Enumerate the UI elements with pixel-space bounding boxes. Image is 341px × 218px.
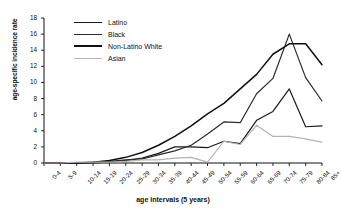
legend-label: Asian — [108, 55, 126, 62]
legend-item-asian: Asian — [74, 52, 162, 64]
legend-label: Black — [108, 31, 125, 38]
legend-label: Latino — [108, 19, 127, 26]
legend-swatch-icon — [74, 45, 102, 47]
legend-item-non-latino-white: Non-Latino White — [74, 40, 162, 52]
legend-item-black: Black — [74, 28, 162, 40]
series-line-latino — [44, 89, 322, 163]
chart-legend: LatinoBlackNon-Latino WhiteAsian — [74, 16, 162, 64]
legend-swatch-icon — [74, 58, 102, 59]
legend-swatch-icon — [74, 22, 102, 23]
legend-item-latino: Latino — [74, 16, 162, 28]
legend-swatch-icon — [74, 34, 102, 35]
legend-label: Non-Latino White — [108, 43, 162, 50]
